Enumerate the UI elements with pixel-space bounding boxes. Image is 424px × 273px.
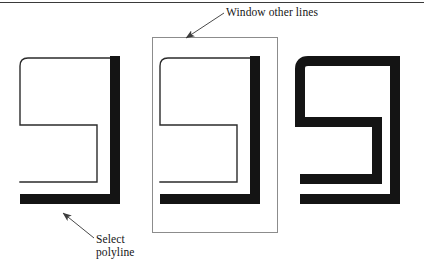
panel-1-thick-right-bar (110, 56, 120, 204)
panel-2-window-selection (153, 38, 278, 233)
panel-2-thin-polyline (160, 58, 252, 182)
panel-3-thick-right-bar (390, 56, 400, 204)
select-polyline-label-line1: Select (96, 233, 125, 245)
window-other-lines-label: Window other lines (226, 6, 318, 19)
panel-1-thick-bottom-bar (20, 194, 120, 204)
diagram-svg (0, 0, 424, 273)
panel-1-before-selection (20, 56, 120, 204)
select-leader-line (63, 213, 94, 238)
panel-3-after-width-applied (300, 56, 400, 204)
panel-2-thick-bottom-bar (160, 194, 260, 204)
panel-2-thick-right-bar (250, 56, 260, 204)
panel-3-thick-polyline (300, 61, 395, 179)
window-leader-line (186, 13, 224, 38)
panel-1-thin-polyline (20, 58, 112, 182)
panel-3-thick-bottom-bar (300, 194, 400, 204)
figure-canvas: Window other lines Select polyline (0, 0, 424, 273)
select-polyline-label: Select polyline (96, 233, 135, 259)
select-polyline-label-line2: polyline (96, 246, 135, 259)
